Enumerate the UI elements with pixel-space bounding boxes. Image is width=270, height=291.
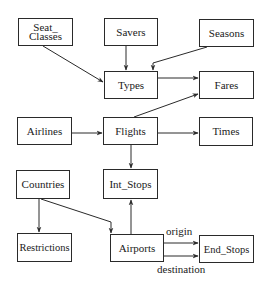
node-label: Airlines [27, 127, 62, 136]
node-airports: Airports [110, 234, 164, 262]
node-airlines: Airlines [17, 117, 72, 145]
node-flights: Flights [103, 117, 158, 145]
edge-countries-airports [41, 199, 111, 233]
node-int-stops: Int_Stops [103, 169, 158, 199]
node-seat-classes: Seat_ Classes [18, 18, 73, 46]
node-types: Types [104, 71, 158, 99]
edge-seat-classes-types [43, 46, 103, 82]
node-label: End_Stops [204, 245, 250, 254]
node-label: Flights [115, 127, 146, 136]
node-label: Savers [116, 28, 145, 37]
node-label: Seat_ Classes [26, 23, 66, 41]
node-times: Times [199, 117, 253, 146]
node-seasons: Seasons [199, 19, 254, 47]
edge-label-destination: destination [157, 263, 205, 275]
node-label: Restrictions [19, 243, 69, 252]
node-label: Airports [119, 244, 156, 253]
node-fares: Fares [199, 71, 254, 99]
edge-seasons-types [153, 47, 207, 70]
node-savers: Savers [104, 18, 158, 46]
node-label: Types [118, 81, 144, 90]
node-label: Times [212, 127, 239, 136]
node-label: Fares [215, 81, 239, 90]
schema-diagram: Seat_ Classes Savers Seasons Types Fares… [0, 0, 270, 291]
node-end-stops: End_Stops [199, 235, 254, 263]
node-restrictions: Restrictions [17, 233, 72, 262]
node-label: Countries [22, 180, 65, 189]
node-label: Seasons [209, 29, 244, 38]
node-countries: Countries [16, 170, 70, 199]
edge-label-origin: origin [166, 225, 192, 237]
node-label: Int_Stops [109, 180, 151, 189]
